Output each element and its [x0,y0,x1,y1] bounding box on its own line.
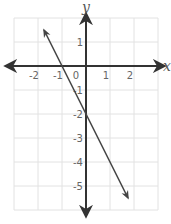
x-tick-label: 0 [73,70,79,81]
x-tick-label: 1 [103,70,109,81]
coordinate-plane: -2-10121-1-2-3-4-5 x y [0,0,171,224]
y-axis-label: y [81,0,91,15]
y-tick-label: -4 [73,157,83,168]
y-tick-label: -5 [73,181,83,192]
x-axis-label: x [163,58,171,74]
y-tick-label: 1 [77,37,83,48]
x-tick-label: -2 [29,70,39,81]
y-tick-label: -3 [73,133,83,144]
x-tick-label: 2 [127,70,133,81]
x-tick-label: -1 [53,70,63,81]
y-tick-label: -2 [73,109,83,120]
